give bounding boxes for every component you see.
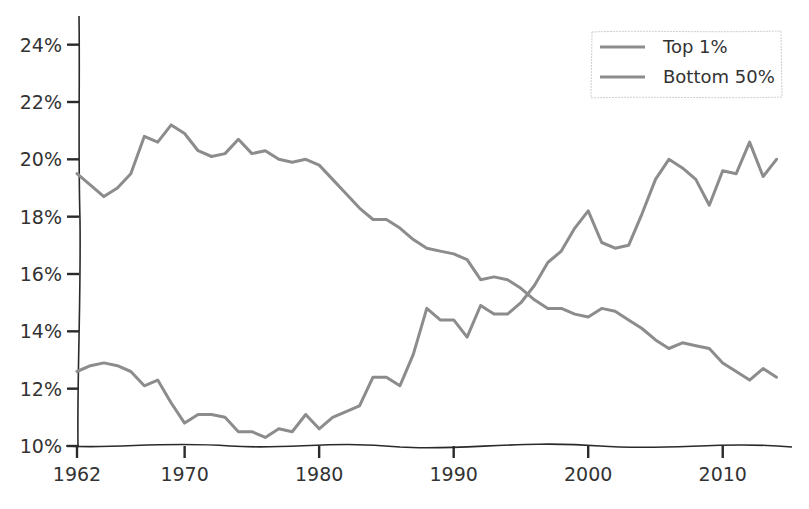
series-line-bottom-50 [77,142,777,437]
y-axis-line [78,16,80,447]
x-tick-label: 2010 [699,463,747,485]
x-tick-label: 1990 [429,463,477,485]
x-tick-label: 1980 [295,463,343,485]
y-ticks: 10%12%14%16%18%20%22%24% [20,34,79,457]
x-axis-line [66,444,792,448]
y-tick-label: 14% [20,320,62,342]
x-ticks: 196219701980199020002010 [53,446,747,485]
series-layer [77,125,777,438]
x-tick-label: 2000 [564,463,612,485]
y-tick-label: 20% [20,148,62,170]
x-tick-label: 1970 [160,463,208,485]
y-tick-label: 18% [20,206,62,228]
x-tick-label: 1962 [53,463,101,485]
y-tick-label: 12% [20,378,62,400]
y-tick-label: 10% [20,435,62,457]
legend: Top 1% Bottom 50% [591,31,782,98]
y-tick-label: 22% [20,91,62,113]
chart-canvas: 10%12%14%16%18%20%22%24% 196219701980199… [0,0,809,509]
legend-label-top-1: Top 1% [662,36,728,57]
y-tick-label: 16% [20,263,62,285]
legend-label-bottom-50: Bottom 50% [663,66,775,87]
y-tick-label: 24% [20,34,62,56]
series-line-top-1 [77,125,777,380]
